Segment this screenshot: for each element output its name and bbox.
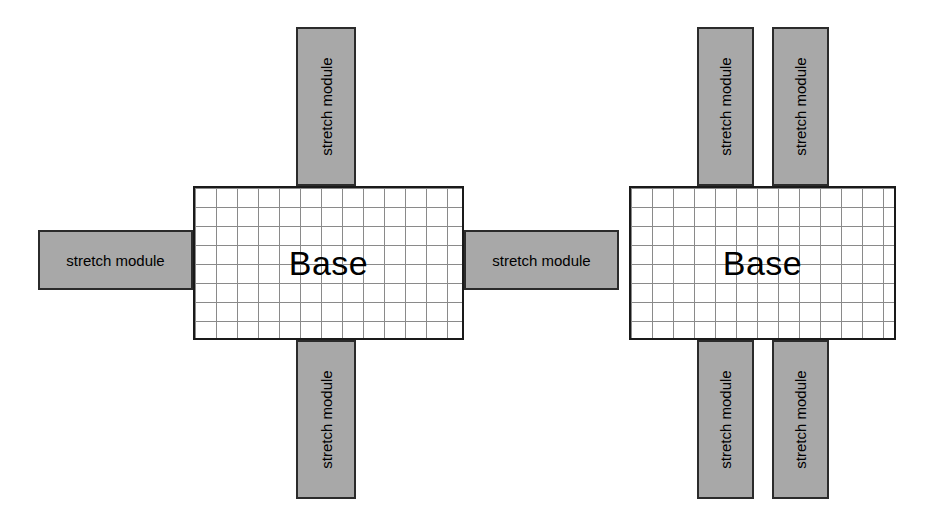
stretch-module-bottom-right: stretch module xyxy=(772,340,829,499)
stretch-module-bottom: stretch module xyxy=(296,340,356,499)
stretch-module-top-left: stretch module xyxy=(697,27,754,186)
stretch-module-label: stretch module xyxy=(319,370,334,468)
stretch-module-label: stretch module xyxy=(793,57,808,155)
base-label: Base xyxy=(631,246,894,280)
base-block-right: Base xyxy=(629,186,896,340)
base-label: Base xyxy=(195,246,462,280)
stretch-module-label: stretch module xyxy=(492,253,590,268)
stretch-module-label: stretch module xyxy=(718,57,733,155)
stretch-module-label: stretch module xyxy=(319,57,334,155)
base-block-left: Base xyxy=(193,186,464,340)
stretch-module-right: stretch module xyxy=(464,230,619,290)
stretch-module-top-right: stretch module xyxy=(772,27,829,186)
stretch-module-top: stretch module xyxy=(296,27,356,186)
stretch-module-label: stretch module xyxy=(718,370,733,468)
stretch-module-label: stretch module xyxy=(66,253,164,268)
diagram-canvas: stretch module stretch module Base stret… xyxy=(0,0,926,519)
stretch-module-label: stretch module xyxy=(793,370,808,468)
stretch-module-left: stretch module xyxy=(38,230,193,290)
stretch-module-bottom-left: stretch module xyxy=(697,340,754,499)
